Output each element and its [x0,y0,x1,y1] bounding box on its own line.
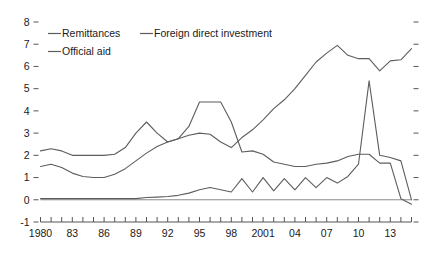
y-axis-labels: -1012345678 [20,16,30,228]
y-tick-label: 8 [24,16,30,28]
legend-label: Official aid [62,45,111,57]
data-series-group [41,45,412,204]
x-tick-label: 2001 [251,227,275,239]
x-tick-label: 13 [384,227,396,239]
y-tick-label: 1 [24,171,30,183]
legend-label: Foreign direct investment [154,27,272,39]
x-tick-label: 07 [321,227,333,239]
chart-legend: RemittancesForeign direct investmentOffi… [48,27,272,57]
y-tick-label: 3 [24,127,30,139]
x-tick-label: 86 [98,227,110,239]
x-tick-label: 89 [130,227,142,239]
series-line-foreign-direct-investment [41,81,412,200]
y-tick-label: -1 [20,216,29,228]
x-tick-label: 10 [353,227,365,239]
series-line-official-aid [41,102,412,204]
y-axis-ticks-right [414,22,419,222]
x-tick-label: 04 [289,227,301,239]
x-tick-label: 83 [66,227,78,239]
y-tick-label: 7 [24,38,30,50]
y-tick-label: 0 [24,194,30,206]
chart-container: -1012345678 1980838689929598200104071013… [0,0,437,258]
x-axis-labels: 1980838689929598200104071013 [29,227,396,239]
x-tick-label: 1980 [29,227,53,239]
y-tick-label: 5 [24,82,30,94]
line-chart: -1012345678 1980838689929598200104071013… [0,0,437,258]
x-axis-ticks [41,217,412,222]
x-tick-label: 95 [194,227,206,239]
y-tick-label: 4 [24,105,30,117]
legend-label: Remittances [62,27,120,39]
y-tick-label: 6 [24,60,30,72]
y-axis-ticks-left [34,22,39,222]
x-tick-label: 92 [162,227,174,239]
y-tick-label: 2 [24,149,30,161]
x-tick-label: 98 [225,227,237,239]
